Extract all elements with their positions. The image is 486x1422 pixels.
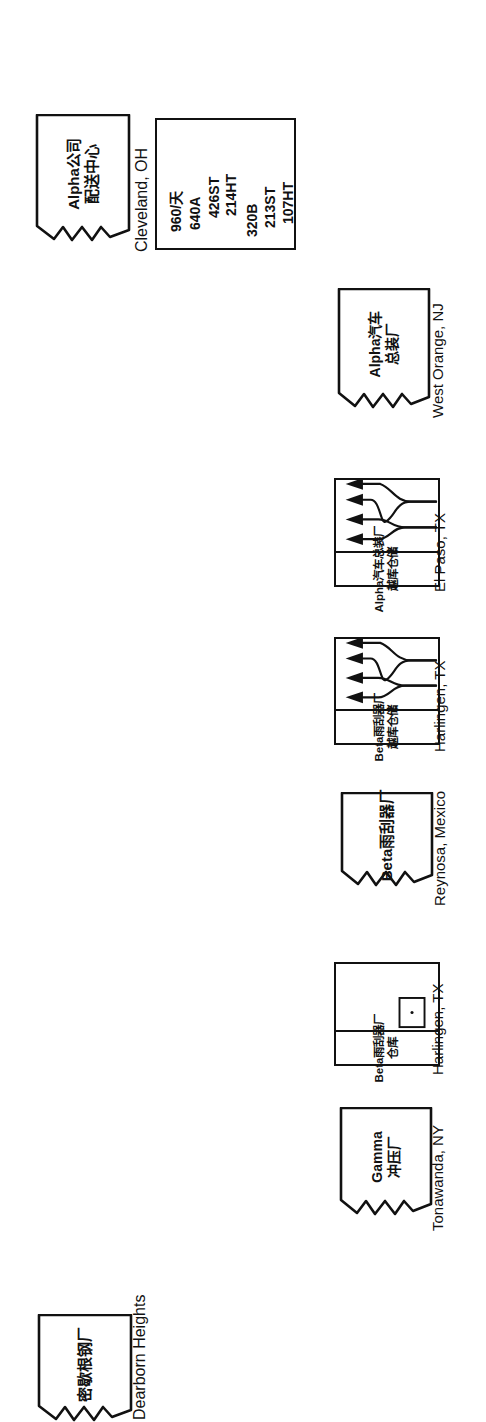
warehouse-caption-line2: 仓库 bbox=[387, 1037, 401, 1059]
node-beta-plant[interactable]: Beta雨刮器厂 bbox=[339, 792, 435, 896]
factory-icon: Alpha公司 配送中心 bbox=[34, 114, 132, 252]
warehouse-pallet bbox=[336, 964, 438, 1030]
data-item: 960/天 bbox=[169, 191, 183, 232]
node-alpha-dc[interactable]: Alpha公司 配送中心 bbox=[34, 114, 132, 252]
crossdock-icon: Beta雨刮器厂 越库仓储 bbox=[334, 637, 440, 745]
location-gamma-stamping: Tonawanda, NY bbox=[430, 1125, 445, 1231]
location-beta-warehouse: Harlingen, TX bbox=[430, 984, 445, 1075]
node-beta-warehouse[interactable]: Beta雨刮器厂 仓库 bbox=[334, 962, 440, 1066]
crossdock-arrows bbox=[336, 639, 438, 709]
location-alpha-dc: Cleveland, OH bbox=[134, 148, 150, 252]
factory-icon: 密歇根钢厂 bbox=[36, 1314, 134, 1422]
data-box-alpha-dc: 960/天 640A 426ST 214HT 320B 213ST 107HT bbox=[155, 118, 296, 250]
location-beta-plant: Reynosa, Mexico bbox=[432, 791, 447, 906]
crossdock-caption: Alpha汽车总装厂 越库仓储 bbox=[336, 551, 438, 585]
location-alpha-assembly: West Orange, NJ bbox=[430, 303, 445, 418]
node-alpha-assembly[interactable]: Alpha汽车 总装厂 bbox=[336, 288, 432, 418]
data-item: 640A bbox=[188, 197, 202, 230]
crossdock-caption-line2: 越库仓储 bbox=[387, 547, 401, 591]
location-michigan-steel: Dearborn Heights bbox=[132, 1295, 148, 1420]
crossdock-arrows bbox=[336, 480, 438, 551]
crossdock-caption-line2: 越库仓储 bbox=[387, 705, 401, 749]
node-alpha-crossdock[interactable]: Alpha汽车总装厂 越库仓储 bbox=[334, 478, 440, 587]
factory-icon: Alpha汽车 总装厂 bbox=[336, 288, 432, 418]
node-gamma-stamping[interactable]: Gamma 冲压厂 bbox=[338, 1107, 434, 1225]
data-item: 214HT bbox=[224, 174, 238, 216]
warehouse-icon: Beta雨刮器厂 仓库 bbox=[334, 962, 440, 1066]
crossdock-icon: Alpha汽车总装厂 越库仓储 bbox=[334, 478, 440, 587]
factory-icon: Gamma 冲压厂 bbox=[338, 1107, 434, 1225]
crossdock-caption: Beta雨刮器厂 越库仓储 bbox=[336, 709, 438, 743]
data-item: 107HT bbox=[281, 182, 295, 224]
factory-icon: Beta雨刮器厂 bbox=[339, 792, 435, 896]
node-beta-crossdock[interactable]: Beta雨刮器厂 越库仓储 bbox=[334, 637, 440, 745]
data-item: 426ST bbox=[207, 177, 221, 218]
data-item: 213ST bbox=[263, 187, 277, 228]
warehouse-caption: Beta雨刮器厂 仓库 bbox=[336, 1030, 438, 1064]
data-item: 320B bbox=[245, 204, 259, 237]
location-alpha-crossdock: El Paso, TX bbox=[432, 513, 447, 592]
location-beta-crossdock: Harlingen, TX bbox=[432, 661, 447, 752]
node-michigan-steel[interactable]: 密歇根钢厂 bbox=[36, 1314, 134, 1422]
